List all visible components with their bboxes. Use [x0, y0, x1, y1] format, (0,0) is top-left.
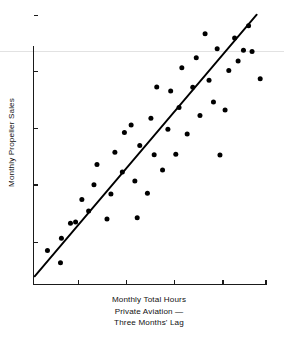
data-point: [236, 59, 241, 64]
data-point: [137, 143, 142, 148]
data-point: [68, 221, 73, 226]
regression-trend-line: [35, 15, 257, 277]
data-point: [154, 84, 159, 89]
data-point: [58, 260, 63, 265]
plot-axes: [33, 46, 266, 285]
data-point: [226, 68, 231, 73]
data-point: [241, 48, 246, 53]
data-point: [173, 152, 178, 157]
data-point: [258, 76, 263, 81]
scatter-plot-figure: Monthly Propeller Sales Monthly Total Ho…: [0, 0, 284, 340]
data-point: [207, 78, 212, 83]
data-point: [152, 152, 157, 157]
data-point: [148, 116, 153, 121]
data-point: [73, 220, 78, 225]
data-point: [45, 248, 50, 253]
y-axis-ticks: [34, 16, 39, 243]
data-point: [246, 23, 251, 28]
data-point: [104, 217, 109, 222]
x-axis-label: Monthly Total Hours Private Aviation — T…: [33, 294, 265, 329]
data-point: [120, 169, 125, 174]
data-point: [86, 208, 91, 213]
data-point: [108, 192, 113, 197]
data-point: [177, 105, 182, 110]
data-point: [232, 35, 237, 40]
y-axis-label: Monthly Propeller Sales: [0, 0, 22, 285]
x-axis-label-line-2: Private Aviation —: [33, 306, 265, 318]
data-point: [223, 108, 228, 113]
data-point: [179, 65, 184, 70]
data-point: [203, 31, 208, 36]
data-point: [145, 191, 150, 196]
data-point: [197, 113, 202, 118]
data-point: [185, 132, 190, 137]
data-point: [91, 182, 96, 187]
data-point: [160, 168, 165, 173]
data-point: [59, 236, 64, 241]
data-point: [190, 85, 195, 90]
data-point: [215, 46, 220, 51]
data-point: [132, 178, 137, 183]
data-point: [168, 89, 173, 94]
data-point: [94, 162, 99, 167]
data-points-group: [45, 23, 263, 265]
data-point: [165, 127, 170, 132]
x-axis-label-line-1: Monthly Total Hours: [33, 294, 265, 306]
data-point: [129, 123, 134, 128]
y-axis-label-text: Monthly Propeller Sales: [7, 98, 16, 187]
trend-line-path: [35, 15, 257, 277]
x-axis-label-line-3: Three Months' Lag: [33, 317, 265, 329]
data-point: [194, 55, 199, 60]
plot-canvas: [0, 0, 284, 340]
x-axis-ticks: [79, 280, 266, 285]
data-point: [217, 153, 222, 158]
data-point: [122, 130, 127, 135]
data-point: [135, 215, 140, 220]
data-point: [112, 150, 117, 155]
data-point: [250, 49, 255, 54]
data-point: [211, 99, 216, 104]
data-point: [79, 197, 84, 202]
